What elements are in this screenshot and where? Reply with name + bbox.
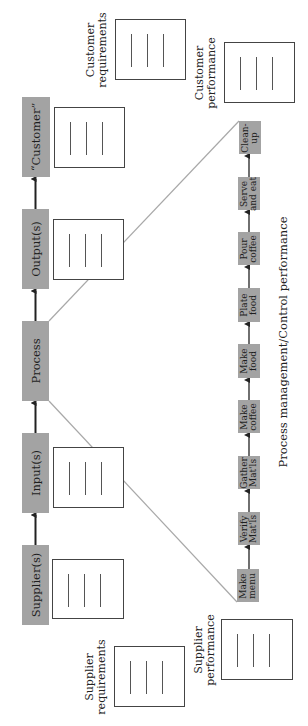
step-gather-matls: Gather Mat'ls [238, 456, 260, 489]
supplier-performance-caption: Supplier performance [192, 619, 218, 680]
customer-performance-caption: Customer performance [193, 42, 219, 103]
step-verify-matls: Verify Mat'ls [238, 512, 260, 545]
process-label: Process [29, 338, 41, 383]
customer-box: “Customer” [22, 97, 50, 177]
supplier-performance-document-icon [221, 619, 293, 680]
customer-performance-document-icon [224, 42, 295, 103]
supplier-box: Supplier(s) [22, 545, 49, 625]
step-serve-and-eat: Serve and eat [238, 177, 260, 210]
step-make-food: Make food [238, 344, 260, 378]
process-management-caption: Process management/Control performance [274, 222, 292, 462]
output-document-icon [53, 219, 124, 280]
customer-requirements-caption: Customer requirements [84, 19, 110, 80]
sipoc-diagram: “Customer” Output(s) Process Input(s) Su… [0, 0, 308, 726]
input-label: Input(s) [29, 450, 41, 496]
customer-label: “Customer” [30, 103, 42, 172]
input-box: Input(s) [22, 433, 49, 513]
input-document-icon [53, 447, 124, 508]
supplier-document-icon [52, 559, 124, 619]
customer-document-icon [54, 107, 125, 168]
output-box: Output(s) [22, 209, 49, 289]
step-make-menu: Make menu [237, 569, 259, 602]
supplier-label: Supplier(s) [29, 553, 41, 618]
output-label: Output(s) [29, 221, 41, 277]
step-plate-food: Plate food [238, 288, 260, 322]
step-pour-coffee: Pour coffee [238, 232, 260, 265]
step-make-coffee: Make coffee [238, 400, 260, 433]
process-box: Process [22, 321, 49, 401]
customer-requirements-document-icon [115, 19, 186, 80]
step-clean-up: Clean- up [239, 121, 261, 154]
supplier-requirements-caption: Supplier requirements [83, 646, 109, 707]
supplier-requirements-document-icon [114, 646, 185, 707]
